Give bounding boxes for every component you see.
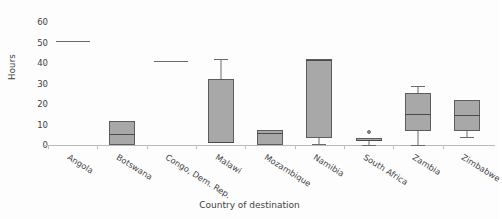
whisker-upper (417, 86, 418, 93)
whisker-cap-upper (411, 86, 425, 87)
x-tick-mark (393, 145, 394, 149)
x-tick-label: Malawi (213, 152, 243, 176)
x-tick-label: Angola (65, 152, 95, 176)
box-median-line (109, 134, 135, 135)
whisker-cap-lower (362, 145, 376, 146)
box-plot-group[interactable] (245, 18, 294, 145)
x-tick-label: Mozambique (263, 152, 313, 189)
whisker-lower (417, 131, 418, 145)
box-plot-group[interactable] (295, 18, 344, 145)
box-plot-group[interactable] (48, 18, 97, 145)
box-median-line (356, 140, 382, 141)
x-tick-mark (344, 145, 345, 149)
box-median-line (208, 142, 234, 143)
box-single-value-line (154, 61, 188, 62)
box-iqr[interactable] (405, 93, 431, 131)
x-tick-label: South Africa (361, 152, 409, 187)
y-axis-label: Hours (7, 37, 17, 97)
box-plot-group[interactable] (147, 18, 196, 145)
x-tick-label: Zimbabwe (460, 152, 502, 184)
x-tick-label: Botswana (115, 152, 155, 182)
whisker-cap-lower (312, 144, 326, 145)
box-single-value-line (56, 41, 90, 42)
box-median-line (405, 114, 431, 115)
x-tick-mark (196, 145, 197, 149)
box-plot-group[interactable] (97, 18, 146, 145)
box-iqr[interactable] (306, 59, 332, 138)
box-iqr[interactable] (208, 79, 234, 143)
x-tick-mark (443, 145, 444, 149)
box-plot-group[interactable] (344, 18, 393, 145)
box-median-line (306, 60, 332, 61)
x-tick-mark (48, 145, 49, 149)
x-tick-mark (97, 145, 98, 149)
whisker-cap-upper (214, 59, 228, 60)
y-axis: 0102030405060 (0, 0, 48, 219)
x-tick-label: Namibia (312, 152, 346, 179)
x-tick-mark (147, 145, 148, 149)
x-axis-label: Country of destination (0, 200, 499, 210)
box-plot-group[interactable] (443, 18, 492, 145)
box-plot-group[interactable] (393, 18, 442, 145)
box-median-line (257, 133, 283, 134)
whisker-cap-lower (460, 137, 474, 138)
whisker-cap-lower (411, 145, 425, 146)
x-tick-mark (295, 145, 296, 149)
x-tick-label: Zambia (411, 152, 443, 177)
whisker-upper (220, 59, 221, 79)
outlier-point[interactable] (367, 130, 371, 134)
box-median-line (454, 115, 480, 116)
x-tick-mark (245, 145, 246, 149)
x-axis-line (48, 145, 495, 146)
box-plot-group[interactable] (196, 18, 245, 145)
